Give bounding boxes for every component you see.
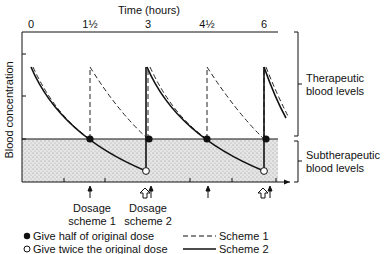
x-tick-1-5: 1½ — [82, 18, 97, 30]
therapeutic-label-line1: Therapeutic — [306, 72, 365, 84]
subtherapeutic-label-line1: Subtherapeutic — [306, 149, 380, 161]
x-tick-4-5: 4½ — [199, 18, 214, 30]
x-tick-0: 0 — [28, 18, 34, 30]
x-axis-arrowhead — [284, 180, 290, 185]
y-ticks — [22, 54, 26, 139]
legend-scheme-1: Scheme 1 — [219, 230, 269, 242]
legend-scheme-2: Scheme 2 — [219, 243, 269, 254]
region-brackets — [294, 32, 302, 182]
dosage-scheme-1-label-line1: Dosage — [73, 202, 111, 214]
subtherapeutic-label-line2: blood levels — [306, 162, 365, 174]
open-circle-icon — [24, 246, 30, 252]
dosage-scheme-2-label-line2: scheme 2 — [124, 215, 172, 227]
dosage-scheme-1-label-line2: scheme 1 — [68, 215, 116, 227]
y-axis-title: Blood concentration — [3, 61, 15, 158]
legend-twice-dose: Give twice the original dose — [33, 243, 168, 254]
therapeutic-label-line2: blood levels — [306, 85, 365, 97]
scheme-2-dose-arrows — [140, 188, 268, 198]
legend: Give half of original dose Give twice th… — [24, 230, 269, 254]
dosage-scheme-2-label-line1: Dosage — [129, 202, 167, 214]
x-tick-6: 6 — [261, 18, 267, 30]
scheme-1-dose-arrows — [88, 186, 272, 198]
scheme-1-curve — [33, 67, 289, 139]
x-axis-title: Time (hours) — [118, 4, 180, 16]
filled-circle-icon — [24, 233, 30, 239]
x-tick-3: 3 — [145, 18, 151, 30]
pharmacokinetics-diagram: Time (hours) 0 1½ 3 4½ 6 Blood concentra… — [0, 0, 385, 254]
legend-half-dose: Give half of original dose — [33, 230, 154, 242]
